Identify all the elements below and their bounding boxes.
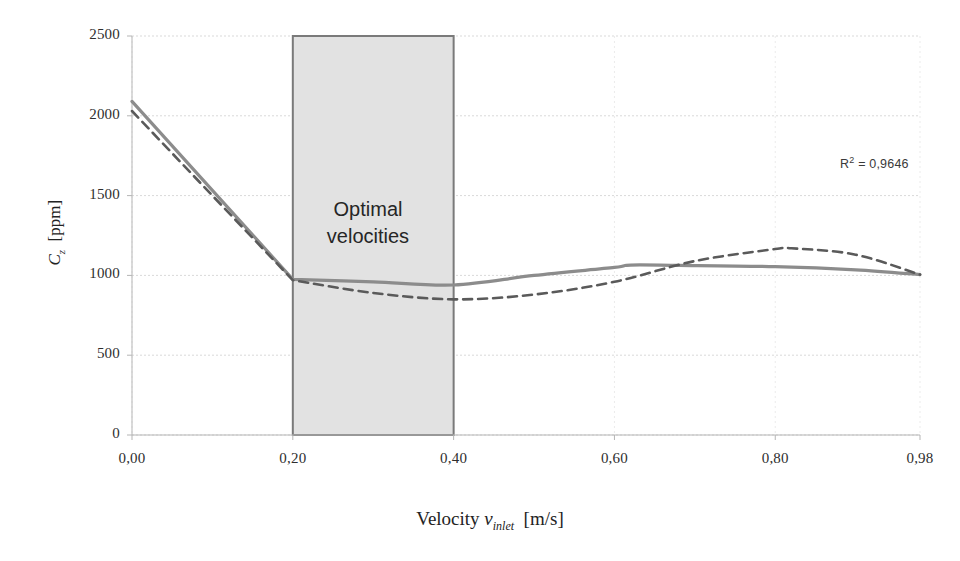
x-tick-label: 0,20	[258, 450, 328, 467]
x-tick-label: 0,98	[885, 450, 955, 467]
series-line-trendline	[132, 111, 920, 299]
r2-value: = 0,9646	[854, 157, 908, 171]
x-tick-label: 0,60	[579, 450, 649, 467]
x-axis-title-word: Velocity	[416, 508, 479, 529]
y-tick-label: 1000	[60, 265, 120, 282]
series-line-measured	[132, 101, 920, 285]
x-tick-label: 0,00	[97, 450, 167, 467]
y-axis-title-unit: [ppm]	[45, 200, 64, 242]
optimal-velocities-label-line-2: velocities	[292, 223, 444, 250]
y-tick-label: 500	[60, 345, 120, 362]
y-axis-title-spacer	[45, 241, 64, 250]
x-tick-label: 0,80	[740, 450, 810, 467]
y-tick-label: 0	[60, 425, 120, 442]
y-axis-title: Cz [ppm]	[45, 163, 66, 303]
r2-symbol: R	[840, 157, 849, 171]
r2-annotation: R2 = 0,9646	[840, 155, 909, 171]
data-series-group	[132, 101, 920, 299]
y-tick-label: 1500	[60, 186, 120, 203]
x-tick-label: 0,40	[419, 450, 489, 467]
chart-figure: 05001000150020002500 0,000,200,400,600,8…	[0, 0, 960, 561]
axes-group	[127, 36, 920, 440]
y-axis-title-symbol: C	[45, 254, 64, 265]
y-tick-label: 2000	[60, 106, 120, 123]
y-tick-label: 2500	[60, 26, 120, 43]
x-axis-title-variable-subscript: inlet	[493, 519, 514, 533]
chart-plot-area	[0, 0, 960, 561]
y-axis-title-subscript: z	[55, 250, 67, 254]
x-axis-title-variable: vinlet	[484, 508, 514, 529]
x-axis-title-spacer-2	[514, 508, 524, 529]
optimal-velocities-label-line-1: Optimal	[292, 196, 444, 223]
optimal-velocities-label: Optimal velocities	[292, 196, 444, 250]
x-axis-title-unit: [m/s]	[524, 508, 564, 529]
x-axis-title: Velocity vinlet [m/s]	[180, 508, 800, 534]
